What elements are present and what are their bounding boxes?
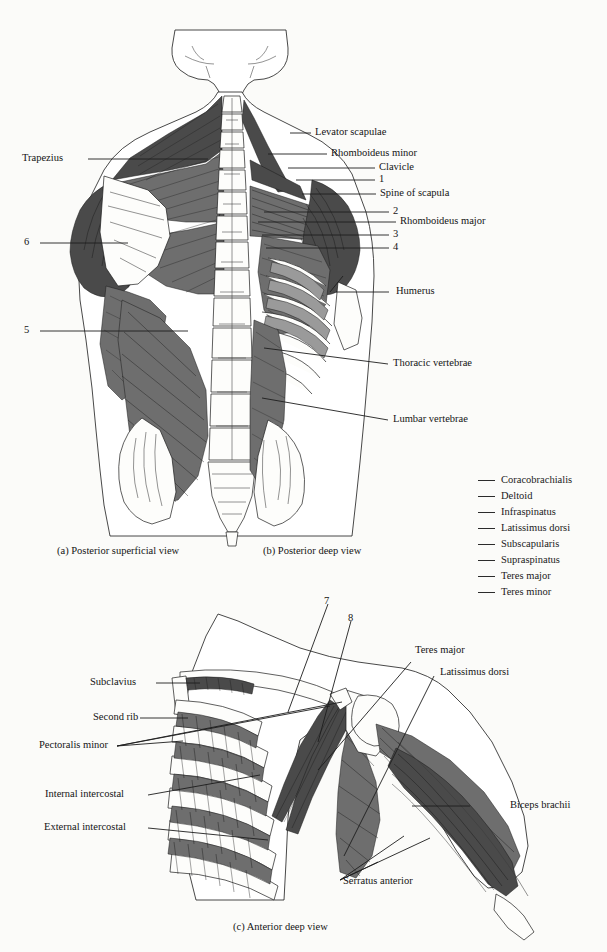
anterior-deep-figure [168, 614, 534, 940]
blank-line-icon[interactable] [478, 576, 495, 577]
blank-line-icon[interactable] [478, 496, 495, 497]
label-number-5: 5 [24, 325, 29, 336]
label-second-rib: Second rib [93, 712, 138, 723]
posterior-torso-figure [70, 30, 374, 546]
label-clavicle: Clavicle [379, 162, 414, 173]
label-thoracic-vertebrae: Thoracic vertebrae [393, 358, 472, 369]
label-trapezius: Trapezius [22, 153, 63, 164]
label-serratus-anterior: Serratus anterior [343, 876, 413, 887]
label-subclavius: Subclavius [90, 677, 136, 688]
blank-line-icon[interactable] [478, 480, 495, 481]
legend-item[interactable]: Supraspinatus [478, 552, 603, 568]
label-latissimus-dorsi: Latissimus dorsi [440, 667, 509, 678]
legend-item[interactable]: Infraspinatus [478, 504, 603, 520]
label-number-8: 8 [348, 613, 353, 624]
label-number-2: 2 [393, 206, 398, 217]
legend-label: Teres minor [501, 584, 551, 600]
label-number-3: 3 [393, 229, 398, 240]
legend-item[interactable]: Teres major [478, 568, 603, 584]
label-number-1: 1 [379, 174, 384, 185]
label-rhomboideus-major: Rhomboideus major [400, 216, 485, 227]
legend-item[interactable]: Subscapularis [478, 536, 603, 552]
blank-line-icon[interactable] [478, 544, 495, 545]
label-spine-of-scapula: Spine of scapula [380, 188, 449, 199]
label-lumbar-vertebrae: Lumbar vertebrae [393, 414, 468, 425]
caption-panel-c: (c) Anterior deep view [233, 921, 328, 932]
caption-panel-b: (b) Posterior deep view [263, 545, 361, 556]
label-internal-intercostal: Internal intercostal [45, 789, 124, 800]
blank-line-icon[interactable] [478, 592, 495, 593]
legend-item[interactable]: Teres minor [478, 584, 603, 600]
legend-label: Deltoid [501, 488, 533, 504]
blank-line-icon[interactable] [478, 560, 495, 561]
label-pectoralis-minor: Pectoralis minor [39, 740, 108, 751]
label-biceps-brachii: Biceps brachii [510, 800, 570, 811]
caption-panel-a: (a) Posterior superficial view [57, 545, 179, 556]
label-teres-major: Teres major [415, 645, 465, 656]
figure-page: Trapezius 6 5 Levator scapulae Rhomboide… [0, 0, 607, 952]
legend-label: Coracobrachialis [501, 472, 572, 488]
legend-item[interactable]: Deltoid [478, 488, 603, 504]
blank-line-icon[interactable] [478, 512, 495, 513]
legend-label: Infraspinatus [501, 504, 556, 520]
label-number-6: 6 [24, 237, 29, 248]
legend-label: Latissimus dorsi [501, 520, 570, 536]
legend-label: Supraspinatus [501, 552, 560, 568]
label-levator-scapulae: Levator scapulae [315, 127, 386, 138]
label-humerus: Humerus [396, 286, 435, 297]
legend-item[interactable]: Coracobrachialis [478, 472, 603, 488]
legend-answer-blanks: Coracobrachialis Deltoid Infraspinatus L… [478, 472, 603, 600]
label-external-intercostal: External intercostal [44, 822, 126, 833]
blank-line-icon[interactable] [478, 528, 495, 529]
label-rhomboideus-minor: Rhomboideus minor [331, 148, 417, 159]
label-number-7: 7 [324, 596, 329, 607]
legend-label: Subscapularis [501, 536, 559, 552]
label-number-4: 4 [393, 242, 398, 253]
legend-label: Teres major [501, 568, 551, 584]
legend-item[interactable]: Latissimus dorsi [478, 520, 603, 536]
